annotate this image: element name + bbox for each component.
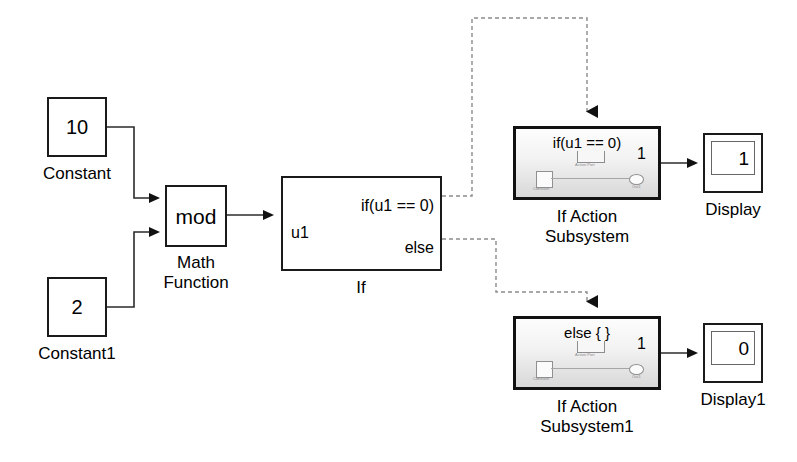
if-block-label: If [311, 278, 411, 298]
constant-block[interactable]: 10 [47, 97, 107, 157]
simulink-canvas: 10 Constant 2 Constant1 mod Math Functio… [0, 0, 797, 462]
if-action-subsystem-block[interactable]: if(u1 == 0) Action Port Constant Out1 [513, 126, 661, 200]
wire-else-branch-control [442, 239, 587, 302]
if-action-subsystem-label: If Action Subsystem [502, 207, 672, 246]
if-block[interactable]: u1 if(u1 == 0) else [281, 176, 442, 271]
math-function-label: Math Function [118, 253, 274, 292]
if-output-port-if-label: if(u1 == 0) [361, 198, 434, 214]
math-function-operator: mod [176, 206, 217, 227]
display-block[interactable]: 1 [703, 133, 763, 193]
display1-screen: 0 [711, 331, 755, 365]
display-value: 1 [738, 149, 749, 168]
if-action-subsystem-output-port-number: 1 [637, 146, 646, 162]
mini-constant-label: Constant [533, 377, 549, 381]
display1-label: Display1 [673, 390, 793, 410]
mini-outport-label: Out1 [632, 185, 641, 189]
display-screen: 1 [711, 141, 755, 175]
wire-constant-to-math [107, 127, 158, 198]
if-action-subsystem1-block[interactable]: else { } Action Port Constant Out1 [513, 316, 661, 390]
mini-constant-label: Constant [533, 187, 549, 191]
constant-label: Constant [7, 164, 147, 184]
if-output-port-else-label: else [405, 240, 434, 256]
constant1-value: 2 [71, 297, 82, 317]
constant1-label: Constant1 [7, 344, 147, 364]
constant1-block[interactable]: 2 [47, 277, 107, 337]
mini-wire [551, 368, 630, 369]
if-action-subsystem1-output-port-number: 1 [637, 336, 646, 352]
mini-outport-label: Out1 [632, 375, 641, 379]
mini-wire [551, 178, 630, 179]
display1-block[interactable]: 0 [703, 323, 763, 383]
mini-action-port-label: Action Port [575, 353, 595, 357]
display1-value: 0 [738, 339, 749, 358]
mini-action-port-label: Action Port [575, 163, 595, 167]
if-action-subsystem1-label: If Action Subsystem1 [502, 397, 672, 436]
display-label: Display [673, 200, 793, 220]
math-function-block[interactable]: mod [165, 185, 227, 247]
if-input-port-label: u1 [291, 225, 309, 241]
constant-value: 10 [66, 117, 88, 137]
